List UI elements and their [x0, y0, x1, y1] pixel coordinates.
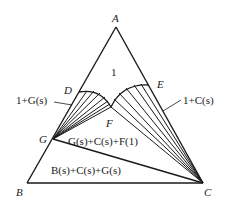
- point-label-f: F: [105, 117, 113, 129]
- tie-line: [53, 91, 87, 139]
- tie-line: [53, 93, 100, 139]
- point-label-e: E: [156, 78, 164, 90]
- tie-lines-g: [53, 91, 111, 139]
- region-label-liquid: 1: [111, 66, 117, 78]
- region-label-three-phase-lower: B(s)+C(s)+G(s): [51, 164, 121, 177]
- leader-liquid-c: [163, 100, 181, 111]
- leader-liquid-g: [54, 102, 72, 105]
- point-label-g: G: [39, 133, 47, 145]
- ternary-diagram: A B C D E F G 1 1+G(s) 1+C(s) G(s)+C(s)+…: [0, 0, 226, 206]
- vertex-label-c: C: [204, 186, 212, 198]
- region-label-liquid-c: 1+C(s): [183, 94, 214, 107]
- region-label-three-phase-upper: G(s)+C(s)+F(1): [68, 135, 138, 148]
- point-label-d: D: [63, 84, 72, 96]
- vertex-label-b: B: [16, 186, 23, 198]
- vertex-label-a: A: [111, 12, 119, 24]
- region-label-liquid-g: 1+G(s): [16, 94, 48, 107]
